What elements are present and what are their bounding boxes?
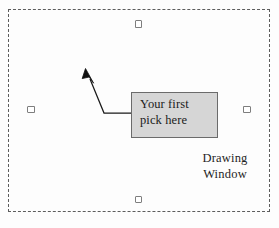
callout-text-line-2: pick here bbox=[140, 113, 217, 129]
grip-marker-bottom[interactable] bbox=[135, 196, 142, 203]
grip-marker-left[interactable] bbox=[27, 106, 35, 113]
drawing-window-label: Drawing Window bbox=[192, 150, 258, 182]
drawing-window-label-line-2: Window bbox=[192, 166, 258, 182]
grip-marker-right[interactable] bbox=[243, 106, 251, 113]
drawing-window-figure: Your first pick here Drawing Window bbox=[0, 0, 279, 228]
drawing-window-label-line-1: Drawing bbox=[192, 150, 258, 166]
callout-box: Your first pick here bbox=[131, 92, 218, 138]
grip-marker-top[interactable] bbox=[135, 20, 142, 28]
callout-text-line-1: Your first bbox=[140, 97, 217, 113]
figure-caption bbox=[12, 219, 252, 228]
